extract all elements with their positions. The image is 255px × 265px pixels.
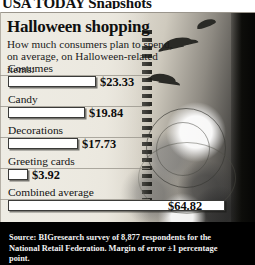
bar-category-label: Candy (8, 93, 38, 105)
panel-left-rule (0, 12, 1, 222)
bar-value-label: $23.33 (100, 76, 134, 88)
bar-category-label: Greeting cards (8, 155, 75, 167)
bar-category-label: Costumes (8, 62, 53, 74)
bar-greeting-cards (8, 169, 28, 180)
bar-costumes (8, 76, 96, 87)
panel-top-rule (0, 12, 255, 13)
page-title: Halloween shopping (7, 17, 149, 36)
source-band: Source: BIGresearch survey of 8,877 resp… (0, 222, 255, 265)
bar-candy (8, 107, 85, 118)
source-note: Source: BIGresearch survey of 8,877 resp… (9, 233, 219, 265)
bar-value-label: $17.73 (82, 138, 116, 150)
bar-value-label: $19.84 (89, 107, 123, 119)
bar-value-label: $64.82 (168, 200, 202, 212)
bar-value-label: $3.92 (32, 169, 60, 181)
bar-category-label: Decorations (8, 124, 63, 136)
source-line-2: Retail Federation. Margin of error ±1 pe… (9, 244, 217, 264)
snapshot-graphic: USA TODAY Snapshots Halloween shopping H… (0, 0, 255, 265)
chart-panel: Halloween shopping How much consumers pl… (0, 12, 255, 265)
bar-category-label: Combined average (8, 186, 94, 198)
bar-decorations (8, 138, 78, 149)
masthead-title: USA TODAY Snapshots (0, 0, 255, 9)
